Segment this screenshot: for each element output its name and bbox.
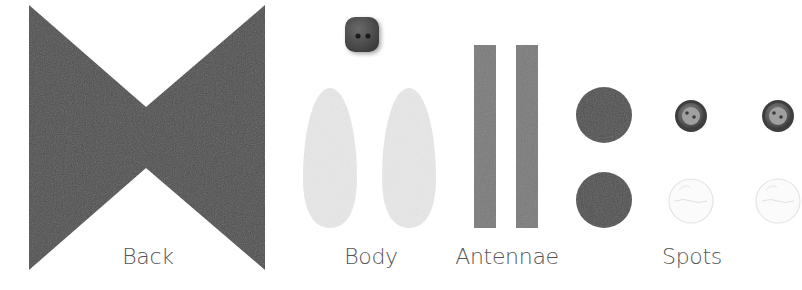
- spots-group: [576, 87, 800, 228]
- body-group: [303, 17, 436, 228]
- label-spots: Spots: [662, 246, 722, 268]
- antennae-group: [474, 45, 538, 228]
- label-back: Back: [122, 246, 174, 268]
- spot-clear-button-right: [756, 179, 800, 223]
- spot-dark-button-left: [675, 100, 707, 132]
- body-square-button: [345, 17, 379, 52]
- spot-dark-button-right: [762, 100, 794, 132]
- body-oval-left: [303, 88, 357, 228]
- label-antennae: Antennae: [455, 246, 559, 268]
- antenna-strip-left: [474, 45, 496, 228]
- body-oval-right: [382, 88, 436, 228]
- spot-clear-button-left: [669, 179, 713, 223]
- spot-felt-circle-bottom: [576, 172, 632, 228]
- antenna-strip-right: [516, 45, 538, 228]
- label-body: Body: [344, 246, 398, 268]
- spot-felt-circle-top: [576, 87, 632, 143]
- back-bowtie-piece: [29, 5, 265, 270]
- back-group: [29, 5, 265, 270]
